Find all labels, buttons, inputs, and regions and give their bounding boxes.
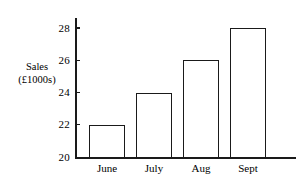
y-axis-tick-label: 26 (44, 55, 70, 66)
bar (136, 93, 172, 158)
y-axis-line (75, 18, 77, 157)
bar (89, 125, 125, 157)
x-axis-category-label: Sept (218, 162, 278, 174)
y-axis-tick-mark (75, 124, 80, 125)
y-axis-tick-label: 28 (44, 23, 70, 34)
y-axis-tick-mark (75, 27, 80, 28)
y-axis-tick-mark (75, 60, 80, 61)
y-axis-tick-label: 22 (44, 119, 70, 130)
y-axis-title-line: (£1000s) (8, 73, 66, 86)
bar (183, 60, 219, 157)
y-axis-tick-mark (75, 92, 80, 93)
y-axis-tick-label: 20 (44, 152, 70, 163)
bar-chart: Sales(£1000s) 2022242628 JuneJulyAugSept (0, 0, 307, 180)
x-axis-line (75, 157, 296, 159)
bar (230, 28, 266, 157)
y-axis-tick-label: 24 (44, 87, 70, 98)
